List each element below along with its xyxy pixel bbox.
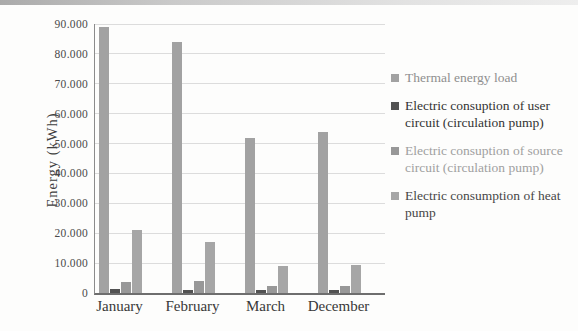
bar-group-december bbox=[318, 24, 361, 293]
bar bbox=[110, 289, 120, 293]
legend-swatch-icon bbox=[391, 147, 399, 155]
bar bbox=[205, 242, 215, 293]
x-axis-label: January bbox=[96, 298, 143, 315]
bar bbox=[132, 230, 142, 293]
legend-item: Electric consumption of heat pump bbox=[391, 188, 573, 221]
bar-group-march bbox=[245, 24, 288, 293]
bar-group-january bbox=[99, 24, 142, 293]
y-tick-label: 20.000 bbox=[55, 227, 88, 239]
y-tick-label: 90.000 bbox=[55, 18, 88, 30]
y-tick-label: 60.000 bbox=[55, 108, 88, 120]
plot-area: 010.00020.00030.00040.00050.00060.00070.… bbox=[94, 24, 385, 295]
bar-group-february bbox=[172, 24, 215, 293]
bar bbox=[194, 281, 204, 293]
bar bbox=[245, 138, 255, 293]
bar bbox=[172, 42, 182, 293]
y-tick-label: 80.000 bbox=[55, 48, 88, 60]
scanned-chart-figure: Energy (kWh) 010.00020.00030.00040.00050… bbox=[0, 0, 578, 331]
legend-label: Electric consuption of source circuit (c… bbox=[405, 143, 573, 176]
legend-label: Electric consumption of heat pump bbox=[405, 188, 573, 221]
legend-item: Thermal energy load bbox=[391, 70, 573, 86]
legend-swatch-icon bbox=[391, 192, 399, 200]
x-axis-labels: JanuaryFebruaryMarchDecember bbox=[94, 298, 384, 320]
bar bbox=[121, 282, 131, 293]
x-axis-label: March bbox=[246, 298, 285, 315]
y-tick-label: 10.000 bbox=[55, 257, 88, 269]
bar bbox=[99, 27, 109, 293]
bar bbox=[351, 265, 361, 293]
scan-artifact-top-edge bbox=[0, 0, 578, 5]
x-axis-label: December bbox=[308, 298, 370, 315]
x-axis-label: February bbox=[165, 298, 219, 315]
bar bbox=[340, 286, 350, 293]
legend-item: Electric consuption of user circuit (cir… bbox=[391, 98, 573, 131]
y-axis-title: Energy (kWh) bbox=[44, 112, 61, 207]
legend-label: Electric consuption of user circuit (cir… bbox=[405, 98, 573, 131]
bar bbox=[329, 290, 339, 293]
y-tick-label: 70.000 bbox=[55, 78, 88, 90]
y-tick-label: 0 bbox=[82, 287, 88, 299]
y-tick-label: 30.000 bbox=[55, 197, 88, 209]
legend-label: Thermal energy load bbox=[405, 70, 517, 86]
bar bbox=[267, 286, 277, 293]
legend: Thermal energy loadElectric consuption o… bbox=[391, 70, 573, 233]
legend-swatch-icon bbox=[391, 102, 399, 110]
legend-swatch-icon bbox=[391, 74, 399, 82]
y-tick-label: 40.000 bbox=[55, 167, 88, 179]
y-tick-label: 50.000 bbox=[55, 138, 88, 150]
bar bbox=[256, 290, 266, 293]
bar bbox=[278, 266, 288, 293]
bar bbox=[183, 290, 193, 293]
bar bbox=[318, 132, 328, 293]
legend-item: Electric consuption of source circuit (c… bbox=[391, 143, 573, 176]
